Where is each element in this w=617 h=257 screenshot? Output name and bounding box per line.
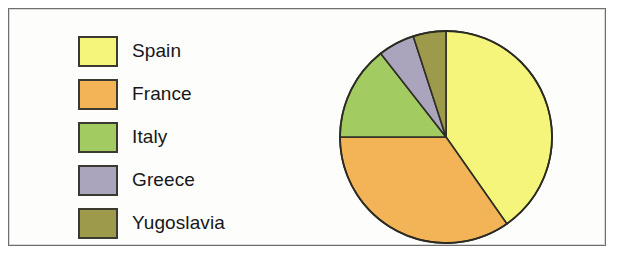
legend-label-greece: Greece [132,163,195,196]
legend-item-france[interactable]: France [78,75,308,118]
legend: SpainFranceItalyGreeceYugoslavia [78,32,308,247]
legend-swatch-italy [78,122,118,153]
legend-swatch-yugoslavia [78,208,118,239]
pie-slices [340,31,552,243]
pie-chart [336,26,556,248]
pie-chart-svg [336,26,556,248]
legend-item-greece[interactable]: Greece [78,161,308,204]
legend-label-yugoslavia: Yugoslavia [132,206,225,239]
legend-swatch-spain [78,36,118,67]
legend-item-spain[interactable]: Spain [78,32,308,75]
legend-label-france: France [132,77,192,110]
legend-item-yugoslavia[interactable]: Yugoslavia [78,204,308,247]
legend-item-italy[interactable]: Italy [78,118,308,161]
legend-swatch-france [78,79,118,110]
figure-frame: SpainFranceItalyGreeceYugoslavia [8,8,606,246]
pie-chart-figure: SpainFranceItalyGreeceYugoslavia [0,0,617,257]
legend-swatch-greece [78,165,118,196]
legend-label-italy: Italy [132,120,167,153]
legend-label-spain: Spain [132,34,181,67]
